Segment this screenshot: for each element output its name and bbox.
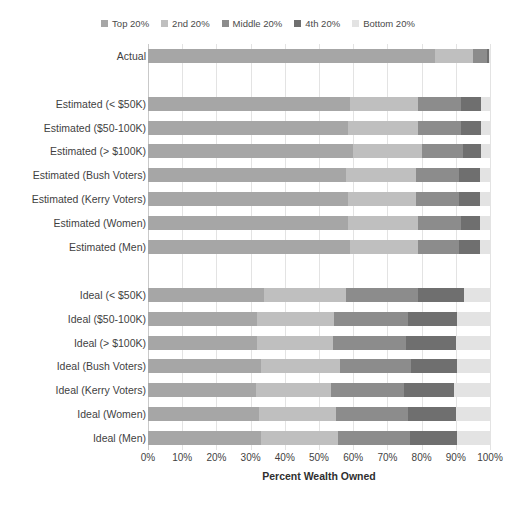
legend-item: Top 20% — [101, 18, 149, 29]
legend-label: 4th 20% — [305, 18, 340, 29]
bar-segment — [261, 431, 338, 445]
x-tick-label: 100% — [477, 452, 503, 463]
bar-segment — [461, 97, 482, 111]
bar-row — [148, 312, 490, 326]
bar-segment — [148, 144, 353, 158]
bar-row — [148, 97, 490, 111]
bar-segment — [463, 144, 482, 158]
bar-row — [148, 336, 490, 350]
bar-row — [148, 431, 490, 445]
bar-row — [148, 216, 490, 230]
category-label: Actual — [0, 50, 146, 62]
bar-segment — [346, 288, 418, 302]
plot-area — [148, 44, 490, 450]
x-tick-label: 30% — [241, 452, 261, 463]
bar-segment — [256, 383, 331, 397]
bar-segment — [404, 383, 454, 397]
bar-segment — [481, 97, 490, 111]
bar-segment — [348, 216, 418, 230]
legend-item: Bottom 20% — [352, 18, 415, 29]
legend-swatch-icon — [101, 20, 108, 27]
category-label: Ideal (> $100K) — [0, 337, 146, 349]
bar-segment — [148, 359, 261, 373]
bar-segment — [461, 121, 482, 135]
bar-segment — [353, 144, 421, 158]
bar-segment — [148, 407, 259, 421]
x-tick-label: 40% — [275, 452, 295, 463]
bar-segment — [148, 192, 348, 206]
legend-item: 2nd 20% — [161, 18, 210, 29]
bar-segment — [459, 192, 480, 206]
bar-segment — [336, 407, 408, 421]
bar-row — [148, 192, 490, 206]
bar-segment — [408, 312, 458, 326]
bar-segment — [480, 216, 490, 230]
x-tick-label: 20% — [206, 452, 226, 463]
x-tick-label: 80% — [412, 452, 432, 463]
bar-segment — [416, 192, 459, 206]
bar-segment — [459, 168, 480, 182]
legend-item: Middle 20% — [222, 18, 283, 29]
legend-item: 4th 20% — [294, 18, 340, 29]
bar-segment — [148, 288, 264, 302]
bar-segment — [148, 49, 435, 63]
bar-segment — [264, 288, 346, 302]
x-axis-title: Percent Wealth Owned — [148, 470, 490, 482]
bar-segment — [418, 288, 464, 302]
bar-segment — [464, 288, 490, 302]
legend-label: Top 20% — [112, 18, 149, 29]
bar-segment — [333, 336, 407, 350]
bar-row — [148, 168, 490, 182]
bar-segment — [418, 240, 459, 254]
bar-segment — [461, 216, 480, 230]
bar-row — [148, 49, 490, 63]
bars-layer — [148, 44, 490, 450]
bar-segment — [148, 168, 346, 182]
legend-swatch-icon — [161, 20, 168, 27]
bar-row — [148, 407, 490, 421]
chart-legend: Top 20%2nd 20%Middle 20%4th 20%Bottom 20… — [0, 18, 516, 29]
legend-label: Bottom 20% — [363, 18, 415, 29]
bar-row — [148, 383, 490, 397]
category-label: Estimated (Kerry Voters) — [0, 193, 146, 205]
bar-row — [148, 240, 490, 254]
category-label: Ideal (Kerry Voters) — [0, 384, 146, 396]
bar-segment — [422, 144, 463, 158]
bar-segment — [457, 431, 489, 445]
bar-segment — [338, 431, 410, 445]
bar-segment — [257, 312, 334, 326]
bar-segment — [435, 49, 473, 63]
x-tick-label: 50% — [309, 452, 329, 463]
bar-segment — [408, 407, 456, 421]
category-label: Ideal ($50-100K) — [0, 313, 146, 325]
bar-segment — [456, 336, 490, 350]
bar-segment — [480, 168, 490, 182]
bar-segment — [348, 192, 416, 206]
legend-swatch-icon — [294, 20, 301, 27]
legend-swatch-icon — [222, 20, 229, 27]
legend-swatch-icon — [352, 20, 359, 27]
category-label: Ideal (Bush Voters) — [0, 360, 146, 372]
bar-segment — [457, 359, 489, 373]
x-tick-label: 90% — [446, 452, 466, 463]
gridline — [490, 44, 491, 450]
bar-segment — [259, 407, 336, 421]
bar-segment — [148, 121, 348, 135]
x-tick-label: 0% — [141, 452, 155, 463]
category-label: Ideal (< $50K) — [0, 289, 146, 301]
bar-segment — [411, 359, 457, 373]
bar-segment — [454, 383, 490, 397]
bar-row — [148, 121, 490, 135]
category-label: Ideal (Men) — [0, 432, 146, 444]
bar-segment — [148, 216, 348, 230]
chart-container: Top 20%2nd 20%Middle 20%4th 20%Bottom 20… — [0, 0, 516, 506]
category-label: Estimated (Bush Voters) — [0, 169, 146, 181]
bar-segment — [340, 359, 412, 373]
bar-segment — [346, 168, 416, 182]
x-tick-label: 70% — [377, 452, 397, 463]
bar-segment — [148, 383, 256, 397]
bar-segment — [481, 121, 490, 135]
bar-segment — [148, 312, 257, 326]
bar-segment — [473, 49, 487, 63]
bar-segment — [350, 240, 418, 254]
